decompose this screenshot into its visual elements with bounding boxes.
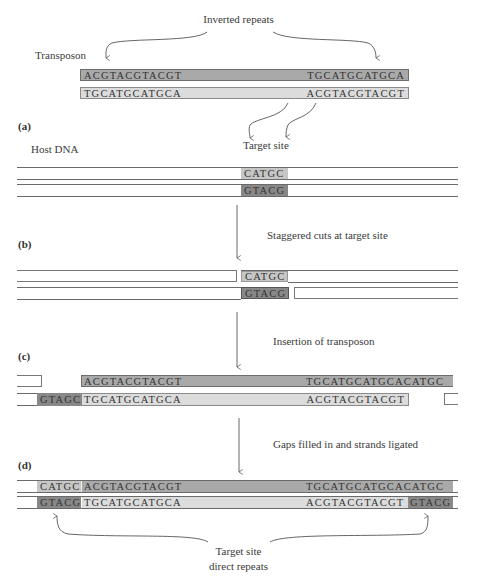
target-site-top: CATGC — [241, 168, 288, 179]
target-site-bottom: GTACG — [241, 185, 288, 196]
host-dna-line — [241, 270, 458, 271]
host-dna-line — [17, 179, 458, 180]
sequence-text: GTACG — [244, 185, 285, 196]
curve-arrow-up-right-icon — [270, 516, 428, 542]
host-dna-line — [17, 508, 458, 509]
step-caption-d: Gaps filled in and strands ligated — [273, 438, 418, 450]
curve-arrow-target2-icon — [286, 103, 316, 137]
sequence-text: TGCATGCATGCACATGC — [306, 481, 444, 492]
sequence-text: TGCATGCATGCA — [84, 497, 182, 508]
transposon-bottom-strand: TGCATGCATGCA ACGTACGTACGT — [80, 87, 409, 99]
step-caption-b: Staggered cuts at target site — [267, 229, 388, 241]
sequence-text: CATGC — [244, 168, 284, 179]
host-dna-line — [17, 492, 458, 493]
step-label-d: (d) — [18, 459, 31, 471]
sequence-text: ACGTACGTACGT — [307, 394, 405, 405]
transposon-top-strand: ACGTACGTACGT TGCATGCATGCA — [80, 69, 409, 81]
host-dna-line — [17, 299, 241, 300]
host-right-bottom-fragment — [444, 393, 458, 405]
sequence-text: GTACG — [40, 497, 81, 508]
sequence-text: TGCATGCATGCACATGC — [306, 376, 444, 387]
step-caption-c: Insertion of transposon — [273, 335, 374, 347]
direct-repeats-label-line2: direct repeats — [0, 560, 477, 572]
direct-repeat-bottom-left: GTACG — [37, 497, 81, 508]
host-dna-line — [17, 167, 458, 168]
direct-repeat-top-left: CATGC — [37, 481, 81, 492]
sequence-text: ACGTACGTACGT — [306, 497, 404, 508]
sequence-text: ACGTACGTACGT — [84, 481, 182, 492]
final-bottom-strand: TGCATGCATGCA ACGTACGTACGT — [81, 497, 408, 508]
host-dna-line — [17, 184, 458, 185]
curve-arrow-up-left-icon — [57, 516, 208, 542]
sequence-text: ACGTACGTACGT — [84, 376, 182, 387]
sequence-text: GTAGC — [40, 394, 81, 405]
sequence-text: CATGC — [40, 481, 80, 492]
target-site-bottom-cut: GTACG — [241, 287, 289, 299]
sequence-text: GTACG — [245, 288, 286, 299]
sequence-text: TGCATGCATGCA — [84, 88, 182, 99]
host-dna-line — [17, 393, 37, 394]
final-top-strand: ACGTACGTACGT TGCATGCATGCACATGC — [81, 481, 453, 492]
curve-arrow-left-icon — [106, 32, 207, 58]
step-label-b: (b) — [18, 238, 31, 250]
inserted-bottom-strand: TGCATGCATGCA ACGTACGTACGT — [81, 393, 409, 406]
step-label-a: (a) — [18, 120, 31, 132]
host-right-bottom-fragment — [294, 287, 458, 299]
transposon-label: Transposon — [35, 49, 86, 61]
host-dna-line — [17, 287, 241, 288]
host-dna-line — [288, 282, 458, 283]
inverted-repeats-label: Inverted repeats — [0, 13, 477, 25]
target-site-top-cut: CATGC — [241, 271, 288, 282]
sequence-text: TGCATGCATGCA — [307, 70, 405, 81]
host-left-top-fragment — [17, 270, 237, 282]
step-label-c: (c) — [18, 350, 30, 362]
host-dna-line — [17, 405, 37, 406]
fill-bottom-left: GTAGC — [37, 393, 81, 406]
target-site-label: Target site — [243, 139, 289, 151]
host-dna-line — [17, 196, 458, 197]
sequence-text: ACGTACGTACGT — [84, 70, 182, 81]
sequence-text: ACGTACGTACGT — [307, 88, 405, 99]
inserted-top-strand: ACGTACGTACGT TGCATGCATGCACATGC — [81, 375, 453, 387]
host-left-top-fragment — [17, 375, 42, 387]
curve-arrow-right-icon — [273, 32, 376, 58]
direct-repeat-bottom-right: GTACG — [408, 497, 453, 508]
direct-repeats-label-line1: Target site — [0, 545, 477, 557]
curve-arrow-target1-icon — [249, 103, 288, 138]
sequence-text: TGCATGCATGCA — [84, 394, 182, 405]
sequence-text: CATGC — [245, 271, 285, 282]
host-dna-label: Host DNA — [31, 143, 78, 155]
sequence-text: GTACG — [410, 497, 451, 508]
